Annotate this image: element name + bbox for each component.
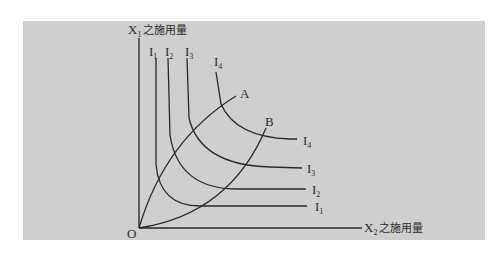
isoquant-I4 bbox=[216, 72, 297, 139]
y-axis-label: X1之施用量 bbox=[128, 22, 187, 39]
label-B: B bbox=[265, 114, 274, 129]
x-axis-label: X2之施用量 bbox=[364, 220, 423, 237]
label-I1-top: I1 bbox=[149, 44, 157, 61]
isoquant-I1 bbox=[156, 58, 307, 206]
label-I2-top: I2 bbox=[165, 44, 173, 61]
label-I1-right: I1 bbox=[315, 199, 323, 216]
label-I4-right: I4 bbox=[303, 133, 311, 150]
isoquant-diagram: X1之施用量 X2之施用量 O I1 I2 I3 I4 I4 I3 I2 I1 … bbox=[0, 0, 504, 255]
origin-label: O bbox=[127, 226, 136, 241]
isoquant-I3 bbox=[187, 58, 302, 168]
label-I2-right: I2 bbox=[312, 182, 320, 199]
label-I3-top: I3 bbox=[185, 44, 193, 61]
label-I3-right: I3 bbox=[307, 161, 315, 178]
expansion-path-A bbox=[139, 96, 236, 228]
label-I4-top: I4 bbox=[214, 54, 222, 71]
label-A: A bbox=[240, 86, 250, 101]
